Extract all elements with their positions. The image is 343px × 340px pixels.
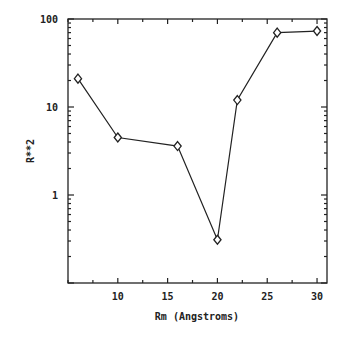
data-point-marker: [313, 27, 320, 36]
x-tick-label: 25: [261, 291, 273, 302]
y-tick-label: 100: [40, 14, 58, 25]
data-markers: [74, 27, 320, 245]
y-tick-label: 1: [52, 190, 58, 201]
x-axis-tick-labels: 1015202530: [112, 291, 323, 302]
y-axis-ticks: [68, 19, 327, 283]
x-tick-label: 30: [311, 291, 323, 302]
plot-frame: [68, 19, 327, 283]
x-tick-label: 15: [162, 291, 174, 302]
x-axis-label: Rm (Angstroms): [155, 311, 239, 322]
x-tick-label: 20: [211, 291, 223, 302]
x-tick-label: 10: [112, 291, 124, 302]
chart: 1015202530 110100 Rm (Angstroms) R**2: [0, 0, 343, 340]
x-axis-ticks: [68, 19, 317, 283]
y-axis-label: R**2: [25, 139, 36, 163]
series-line: [78, 31, 317, 240]
data-point-marker: [174, 142, 181, 151]
data-point-marker: [214, 235, 221, 244]
y-tick-label: 10: [46, 102, 58, 113]
y-axis-tick-labels: 110100: [40, 14, 58, 201]
